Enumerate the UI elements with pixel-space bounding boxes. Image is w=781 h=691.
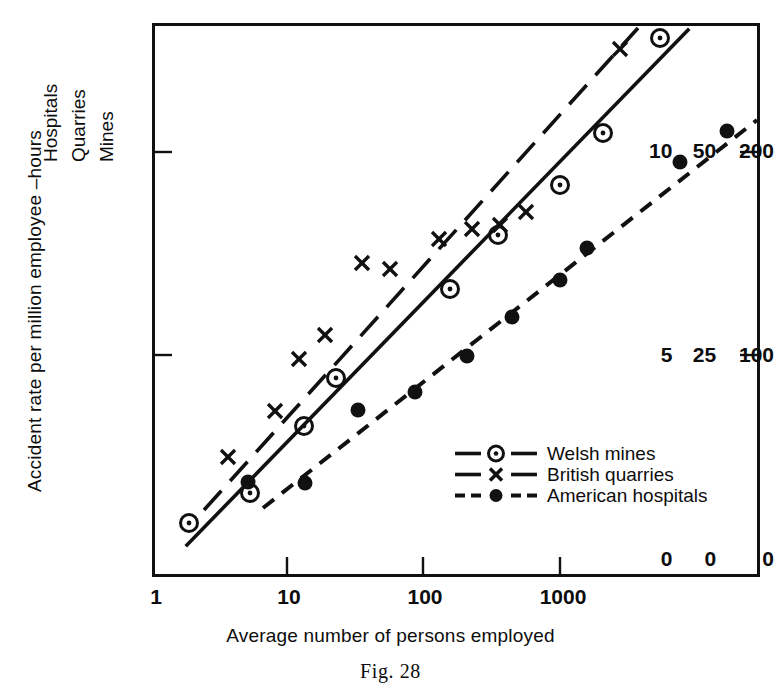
- x-tick-label-10: 10: [277, 585, 300, 609]
- marker-circled-dot: [652, 30, 669, 47]
- marker-cross-x: [268, 404, 282, 418]
- marker-filled-dot: [505, 310, 520, 325]
- y-tick-mines-top: 200: [722, 140, 774, 161]
- y-tick-mines-zero: 0: [722, 548, 774, 569]
- legend-label-welsh-mines: Welsh mines: [539, 443, 655, 464]
- marker-cross-x: [432, 232, 446, 246]
- y-tick-labels-mid: 5 25 100: [629, 344, 781, 365]
- legend-label-british-quarries: British quarries: [539, 464, 674, 485]
- marker-circled-dot: [328, 370, 345, 387]
- british-quarries-markers: [221, 42, 627, 464]
- marker-circled-dot: [442, 281, 459, 298]
- legend-key-american-hospitals: [453, 485, 539, 506]
- legend-label-american-hospitals: American hospitals: [539, 485, 708, 506]
- series-british-quarries: [204, 28, 638, 510]
- y-tick-hospitals-zero: 0: [642, 548, 672, 569]
- marker-cross-x: [613, 42, 627, 56]
- x-axis-title: Average number of persons employed: [0, 625, 781, 647]
- marker-cross-x: [465, 222, 479, 236]
- marker-filled-dot: [553, 273, 568, 288]
- marker-filled-dot: [460, 349, 475, 364]
- legend-key-british-quarries: [453, 464, 539, 485]
- marker-circled-dot: [181, 515, 198, 532]
- marker-circled-dot: [595, 125, 612, 142]
- marker-cross-x: [519, 205, 533, 219]
- marker-cross-x: [221, 450, 235, 464]
- marker-cross-x: [355, 256, 369, 270]
- marker-filled-dot: [241, 475, 256, 490]
- marker-circled-dot: [552, 177, 569, 194]
- legend-item-welsh-mines: Welsh mines: [453, 443, 708, 464]
- marker-cross-x: [318, 328, 332, 342]
- marker-filled-dot: [580, 241, 595, 256]
- y-tick-labels-zero: 0 0 0: [629, 548, 781, 569]
- legend-item-british-quarries: British quarries: [453, 464, 708, 485]
- marker-cross-x: [493, 218, 507, 232]
- y-tick-quarries-mid: 25: [678, 344, 716, 365]
- marker-cross-x: [292, 352, 306, 366]
- y-tick-labels-top: 10 50 200: [629, 140, 781, 161]
- legend-key-welsh-mines: [453, 443, 539, 464]
- x-tick-label-1000: 1000: [540, 585, 587, 609]
- american-hospitals-markers: [241, 124, 735, 491]
- y-scale-name-hospitals: Hospitals: [40, 84, 62, 162]
- figure-28: Accident rate per million employee –hour…: [0, 0, 781, 691]
- marker-filled-dot: [408, 385, 423, 400]
- british-quarries-fit-line: [204, 28, 638, 510]
- cross-x-icon: [490, 469, 502, 481]
- y-tick-quarries-zero: 0: [678, 548, 716, 569]
- y-tick-hospitals-top: 10: [642, 140, 672, 161]
- marker-filled-dot: [298, 476, 313, 491]
- figure-caption-text: Fig. 28: [360, 660, 421, 682]
- marker-filled-dot: [351, 403, 366, 418]
- circled-dot-icon: [489, 446, 504, 461]
- y-tick-mines-mid: 100: [722, 344, 774, 365]
- marker-cross-x: [383, 262, 397, 276]
- filled-dot-icon: [490, 489, 503, 502]
- marker-filled-dot: [720, 124, 735, 139]
- y-tick-hospitals-mid: 5: [642, 344, 672, 365]
- x-tick-label-1: 1: [150, 585, 162, 609]
- legend-item-american-hospitals: American hospitals: [453, 485, 708, 506]
- legend: Welsh mines British quarries American ho…: [453, 443, 708, 506]
- x-tick-label-100: 100: [407, 585, 442, 609]
- y-tick-quarries-top: 50: [678, 140, 716, 161]
- marker-circled-dot: [296, 418, 313, 435]
- y-scale-name-quarries: Quarries: [68, 89, 90, 162]
- figure-caption: Fig. 28: [0, 660, 781, 683]
- y-scale-name-mines: Mines: [96, 111, 118, 162]
